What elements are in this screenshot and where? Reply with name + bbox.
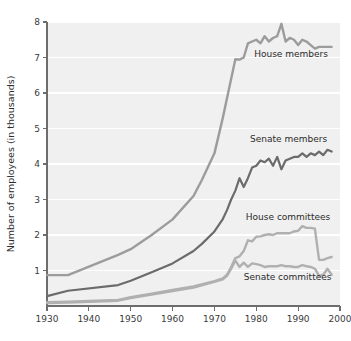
y-tick-label-7: 7 — [34, 53, 40, 63]
line-chart: 12345678 1930194019501960197019801990200… — [0, 0, 351, 341]
x-tick-label-1990: 1990 — [287, 314, 310, 324]
y-tick-label-1: 1 — [34, 266, 40, 276]
x-tick-label-2000: 2000 — [329, 314, 351, 324]
x-tick-label-1960: 1960 — [161, 314, 184, 324]
y-tick-label-2: 2 — [34, 230, 40, 240]
series-label-house-committees: House committees — [246, 212, 331, 222]
x-tick-label-1980: 1980 — [245, 314, 268, 324]
y-tick-label-3: 3 — [34, 195, 40, 205]
series-label-senate-committees: Senate committees — [244, 272, 332, 282]
chart-container: 12345678 1930194019501960197019801990200… — [0, 0, 351, 341]
y-tick-label-6: 6 — [34, 88, 40, 98]
x-tick-label-1940: 1940 — [77, 314, 100, 324]
series-label-house-members: House members — [254, 49, 328, 59]
y-tick-label-4: 4 — [34, 159, 40, 169]
x-tick-label-1970: 1970 — [203, 314, 226, 324]
x-tick-label-1950: 1950 — [119, 314, 142, 324]
x-tick-label-1930: 1930 — [36, 314, 59, 324]
y-tick-label-5: 5 — [34, 124, 40, 134]
series-label-senate-members: Senate members — [250, 134, 327, 144]
y-tick-label-8: 8 — [34, 17, 40, 27]
y-axis-title: Number of employees (in thousands) — [5, 76, 16, 253]
